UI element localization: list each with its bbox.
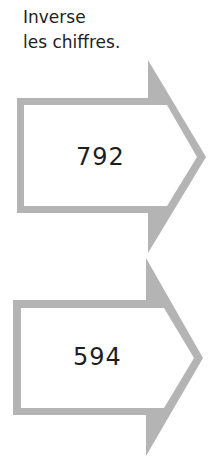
arrow-shape-icon (0, 0, 221, 465)
arrow-box-2: 594 (0, 0, 221, 465)
arrow-number-2: 594 (73, 343, 122, 371)
